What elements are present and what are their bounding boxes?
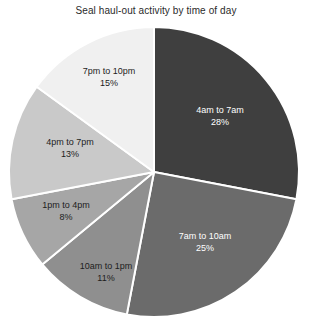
pie-chart: Seal haul-out activity by time of day 4a… (0, 0, 312, 336)
pie-slice (154, 27, 299, 199)
pie-slice-group (9, 27, 299, 317)
pie-svg (0, 0, 312, 336)
pie-slice (127, 172, 297, 317)
